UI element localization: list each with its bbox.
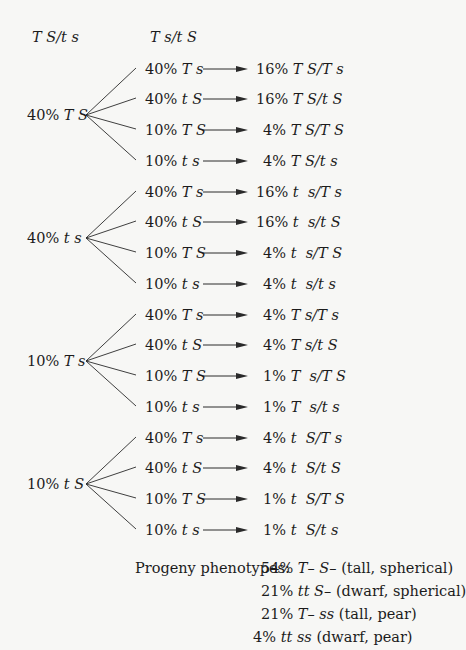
arrow-icon — [236, 527, 248, 533]
arrow-icon — [236, 189, 248, 195]
progeny-genotype: 1% T s/t s — [263, 400, 340, 415]
arrow-icon — [236, 281, 248, 287]
arrow-icon — [236, 219, 248, 225]
progeny-genotype: 16% t s/t S — [256, 215, 341, 230]
arrow-icon — [236, 66, 248, 72]
arrow-icon — [236, 373, 248, 379]
gamete-label: 10% t s — [145, 523, 200, 538]
progeny-genotype: 4% T S/T S — [263, 123, 344, 138]
gamete-label: 40% T s — [145, 62, 204, 77]
progeny-genotype: 16% t s/T s — [256, 185, 342, 200]
gamete-label: 10% T S — [145, 492, 206, 507]
gamete-label: 40% t S — [145, 461, 202, 476]
gamete-label: 40% t S — [145, 92, 202, 107]
gamete-label: 10% t s — [145, 277, 200, 292]
phenotype-line: 4% tt ss (dwarf, pear) — [253, 630, 412, 645]
arrow-icon — [236, 465, 248, 471]
gamete-label: 10% t s — [145, 154, 200, 169]
progeny-genotype: 4% t s/T S — [263, 246, 342, 261]
parent-gamete-4: 10% t S — [27, 477, 84, 492]
gamete-label: 10% T S — [145, 246, 206, 261]
progeny-genotype: 16% T S/T s — [256, 62, 344, 77]
progeny-genotype: 4% t s/t s — [263, 277, 336, 292]
parent-gamete-1: 40% T S — [27, 108, 88, 123]
arrow-icon — [236, 312, 248, 318]
arrow-icon — [236, 496, 248, 502]
gamete-label: 40% t S — [145, 338, 202, 353]
progeny-genotype: 4% T s/t S — [263, 338, 338, 353]
progeny-genotype: 4% T s/T s — [263, 308, 339, 323]
gamete-label: 40% T s — [145, 431, 204, 446]
phenotype-line: 21% T– ss (tall, pear) — [261, 607, 417, 622]
arrow-icon — [236, 250, 248, 256]
gamete-label: 10% T S — [145, 369, 206, 384]
progeny-genotype: 1% t S/T S — [263, 492, 345, 507]
arrow-icon — [236, 127, 248, 133]
progeny-genotype: 4% T S/t s — [263, 154, 338, 169]
gamete-label: 10% T S — [145, 123, 206, 138]
parent-gamete-3: 10% T s — [27, 354, 86, 369]
progeny-genotype: 1% t S/t s — [263, 523, 338, 538]
arrow-icon — [236, 96, 248, 102]
gamete-label: 40% t S — [145, 215, 202, 230]
arrow-icon — [236, 435, 248, 441]
progeny-genotype: 16% T S/t S — [256, 92, 342, 107]
gamete-label: 10% t s — [145, 400, 200, 415]
arrow-icon — [236, 158, 248, 164]
progeny-genotype: 4% t S/t S — [263, 461, 341, 476]
arrow-icon — [236, 342, 248, 348]
arrow-icon — [236, 404, 248, 410]
phenotype-line: 54% T– S– (tall, spherical) — [261, 561, 453, 576]
parent-gamete-2: 40% t s — [27, 231, 82, 246]
gamete-label: 40% T s — [145, 185, 204, 200]
gamete-label: 40% T s — [145, 308, 204, 323]
progeny-genotype: 1% T s/T S — [263, 369, 346, 384]
progeny-genotype: 4% t S/T s — [263, 431, 342, 446]
phenotype-line: 21% tt S– (dwarf, spherical) — [261, 584, 466, 599]
